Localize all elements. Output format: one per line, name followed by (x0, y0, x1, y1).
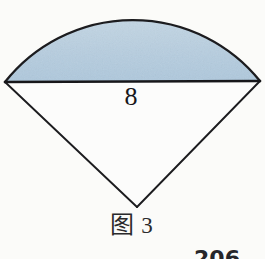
chord-length-label: 8 (113, 82, 149, 112)
figure-caption-number: 3 (141, 213, 154, 238)
page-number-partial: 206 (181, 248, 253, 259)
figure-caption-word: 图 (110, 211, 135, 239)
figure-caption: 图3 (72, 210, 192, 241)
shaded-circular-segment (5, 20, 260, 82)
figure-container: 8 图3 206 (0, 0, 265, 259)
